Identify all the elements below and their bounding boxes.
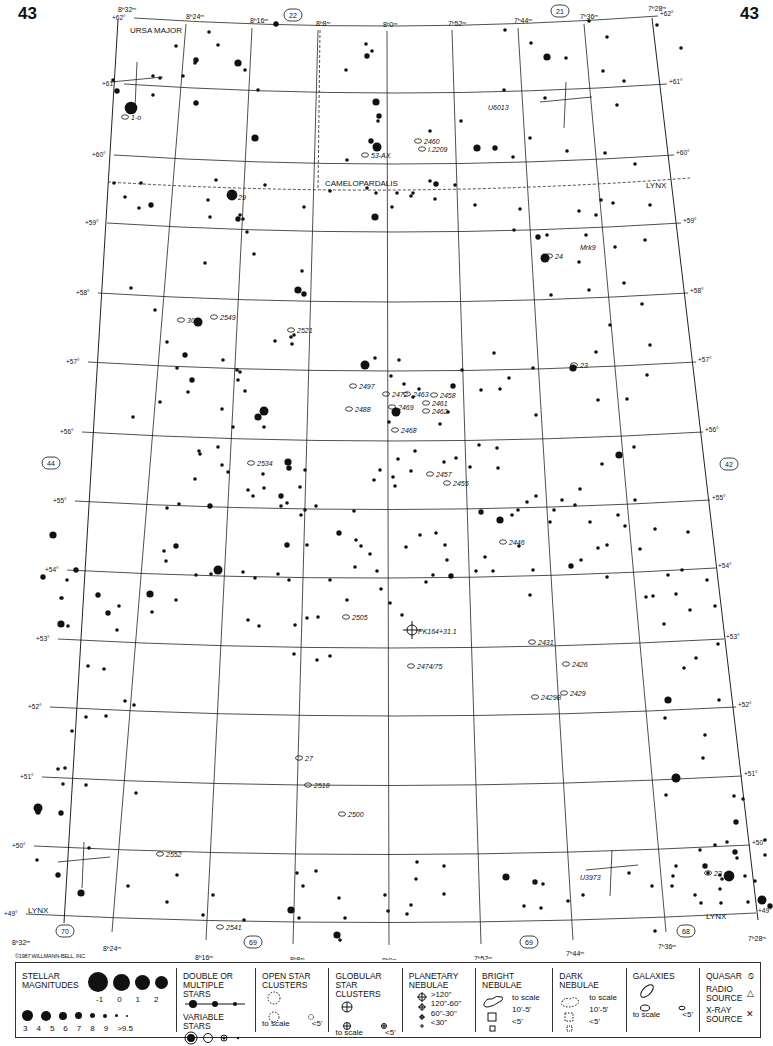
star <box>433 197 437 201</box>
adjacent-chart-number[interactable]: 68 <box>682 928 690 935</box>
declination-line <box>67 568 716 578</box>
star <box>622 79 626 83</box>
star <box>284 542 289 547</box>
star <box>564 56 568 60</box>
galaxy-icon <box>122 115 129 119</box>
star <box>608 323 612 327</box>
star <box>251 494 255 498</box>
star <box>61 782 65 786</box>
magnitude-row-bright <box>88 972 168 992</box>
star <box>671 874 675 878</box>
star <box>278 493 283 498</box>
dark-nebula-icons <box>559 994 583 1034</box>
galaxy-icon <box>408 664 415 668</box>
star <box>522 904 526 908</box>
star <box>473 203 477 207</box>
star <box>262 425 266 429</box>
legend-title: DOUBLE OR MULTIPLE STARS <box>183 972 249 999</box>
star <box>651 594 655 598</box>
declination-line <box>26 913 756 923</box>
adjacent-chart-number[interactable]: 69 <box>525 939 533 946</box>
star <box>680 568 684 572</box>
adjacent-chart-number[interactable]: 44 <box>47 460 55 467</box>
star <box>194 573 198 577</box>
star <box>328 578 332 582</box>
star <box>468 465 472 469</box>
star <box>336 530 341 535</box>
mag-label: 1 <box>136 996 140 1004</box>
star <box>289 335 293 339</box>
star <box>662 622 666 626</box>
planetary-size-label: <30" <box>431 1018 469 1028</box>
star <box>165 506 169 510</box>
size-label: <5' <box>512 1016 546 1028</box>
adjacent-chart-number[interactable]: 22 <box>289 12 297 19</box>
dec-label-right: +53° <box>726 633 740 640</box>
star-chart-map[interactable]: 1-oU60132460I.220953-AX29Mrk924302549252… <box>0 0 773 960</box>
star <box>653 527 657 531</box>
star <box>337 896 341 900</box>
star <box>162 549 166 553</box>
legend-galaxies: GALAXIES to scale<5' <box>627 968 700 1032</box>
declination-line <box>88 362 696 371</box>
star <box>302 205 306 209</box>
star <box>674 864 678 868</box>
star <box>587 288 591 292</box>
star <box>139 181 143 185</box>
galaxy-icon <box>383 392 390 396</box>
dec-label-left: +52° <box>28 703 42 710</box>
star <box>443 543 447 547</box>
object-label: 2455 <box>452 480 469 487</box>
star <box>246 488 250 492</box>
galaxy-icon <box>211 315 218 319</box>
star <box>295 871 299 875</box>
star <box>404 545 408 549</box>
star <box>613 245 617 249</box>
map-legend: STELLAR MAGNITUDES -1 0 1 2 3 4 5 <box>15 962 761 1038</box>
star-mag-icon <box>126 1015 128 1017</box>
star <box>216 445 220 449</box>
star <box>633 498 637 502</box>
adjacent-chart-number[interactable]: 42 <box>725 461 733 468</box>
adjacent-chart-number[interactable]: 70 <box>61 928 69 935</box>
star <box>131 415 135 419</box>
legend-title: VARIABLE STARS <box>183 1013 249 1031</box>
star <box>393 484 397 488</box>
adjacent-chart-number[interactable]: 21 <box>556 8 564 15</box>
star <box>174 598 178 602</box>
radio-source-icon: △ <box>747 989 754 998</box>
star <box>238 213 242 217</box>
star <box>206 198 210 202</box>
star <box>164 559 168 563</box>
star <box>372 478 376 482</box>
star <box>507 376 511 380</box>
adjacent-chart-number[interactable]: 69 <box>249 939 257 946</box>
star <box>605 543 609 547</box>
star <box>214 566 223 575</box>
ra-label-top: 8ʰ24ᵐ <box>186 13 204 20</box>
star <box>303 508 307 512</box>
star <box>383 893 387 897</box>
crosshair <box>82 842 84 888</box>
object-label: 2534 <box>256 460 273 467</box>
star <box>459 119 463 123</box>
dec-label-right: +61° <box>669 78 683 85</box>
star <box>193 57 198 62</box>
star <box>126 884 130 888</box>
legend-bright-nebulae: BRIGHT NEBULAE to scale 10'-5' <5' <box>476 968 553 1032</box>
star <box>148 202 153 207</box>
star <box>315 658 319 662</box>
star <box>495 446 499 450</box>
dec-label-right: +58° <box>690 287 704 294</box>
star <box>353 565 357 569</box>
object-label: 2458 <box>439 392 456 399</box>
star <box>688 608 692 612</box>
star <box>581 893 585 897</box>
lt5-label: <5' <box>312 1020 323 1028</box>
star <box>577 260 581 264</box>
legend-stellar-magnitudes: STELLAR MAGNITUDES -1 0 1 2 3 4 5 <box>16 968 177 1032</box>
star <box>473 144 480 151</box>
star <box>705 578 709 582</box>
radio-label: RADIO SOURCE <box>706 985 746 1003</box>
object-label: 2500 <box>347 811 364 818</box>
